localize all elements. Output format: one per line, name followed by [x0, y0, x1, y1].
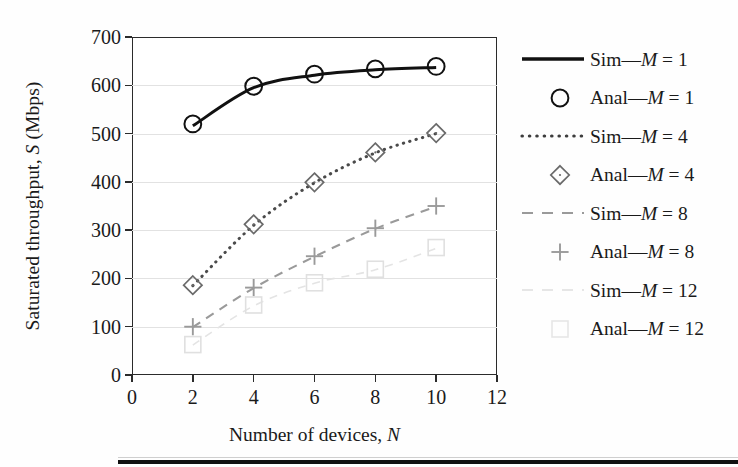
legend-label-variable: M — [641, 280, 657, 301]
x-tick-mark — [496, 375, 497, 382]
y-tick-mark — [125, 133, 132, 134]
x-tick-label: 2 — [188, 387, 198, 407]
diamond-marker — [520, 163, 586, 187]
faint-square-marker — [520, 317, 586, 341]
x-tick-mark — [253, 375, 254, 382]
data-point-marker — [246, 297, 262, 313]
y-tick-label: 600 — [91, 75, 121, 95]
legend-label-variable: M — [641, 126, 657, 147]
legend-label: Sim—M = 4 — [586, 127, 688, 147]
y-axis-title: Saturated throughput, S (Mbps) — [18, 37, 48, 375]
x-tick-mark — [314, 375, 315, 382]
dashed-line — [520, 201, 586, 225]
data-point-marker — [306, 248, 323, 265]
legend-label-variable: M — [641, 49, 657, 70]
legend-sample — [520, 86, 586, 110]
x-tick-mark — [375, 375, 376, 382]
data-point-marker — [552, 89, 569, 106]
y-tick-mark — [125, 326, 132, 327]
legend-label: Sim—M = 8 — [586, 204, 688, 224]
legend-label-variable: M — [647, 318, 663, 339]
legend-sample — [520, 124, 586, 148]
data-point-marker — [366, 143, 384, 161]
legend-label: Anal—M = 1 — [586, 88, 694, 108]
legend-label-value: = 12 — [657, 280, 697, 301]
legend-label: Anal—M = 4 — [586, 165, 694, 185]
legend-sample — [520, 201, 586, 225]
legend-item[interactable]: Anal—M = 12 — [520, 310, 732, 349]
x-axis-title-text: Number of devices, — [229, 424, 387, 445]
legend-item[interactable]: Anal—M = 8 — [520, 233, 732, 272]
y-tick-label: 500 — [91, 124, 121, 144]
legend-label-value: = 1 — [664, 87, 695, 108]
legend-label-value: = 8 — [664, 241, 695, 262]
y-tick-mark — [125, 229, 132, 230]
x-tick-label: 10 — [426, 387, 446, 407]
legend-label-variable: M — [647, 164, 663, 185]
legend-label-value: = 4 — [657, 126, 688, 147]
data-point-marker — [552, 321, 568, 337]
data-point-marker — [305, 173, 323, 191]
legend-label-prefix: Anal— — [590, 318, 647, 339]
x-tick-label: 6 — [310, 387, 320, 407]
legend-label-value: = 12 — [664, 318, 704, 339]
data-point-marker — [184, 276, 202, 294]
data-point-marker — [244, 215, 262, 233]
legend-item[interactable]: Sim—M = 4 — [520, 117, 732, 156]
legend-item[interactable]: Sim—M = 1 — [520, 40, 732, 79]
data-point-marker — [427, 124, 445, 142]
legend-label-prefix: Sim— — [590, 49, 641, 70]
legend-label-prefix: Sim— — [590, 126, 641, 147]
legend-sample — [520, 278, 586, 302]
data-point-marker — [367, 220, 384, 237]
legend-label: Anal—M = 8 — [586, 242, 694, 262]
plus-marker — [520, 240, 586, 264]
legend-label-prefix: Anal— — [590, 241, 647, 262]
data-point-marker — [428, 197, 445, 214]
x-tick-label: 12 — [487, 387, 507, 407]
legend-item[interactable]: Anal—M = 1 — [520, 79, 732, 118]
legend-label: Sim—M = 1 — [586, 50, 688, 70]
x-tick-label: 8 — [370, 387, 380, 407]
y-tick-mark — [125, 278, 132, 279]
legend-item[interactable]: Sim—M = 8 — [520, 194, 732, 233]
legend-sample — [520, 163, 586, 187]
y-tick-mark — [125, 181, 132, 182]
legend-label-value: = 1 — [657, 49, 688, 70]
legend-label-variable: M — [641, 203, 657, 224]
data-point-marker — [428, 240, 444, 256]
legend-sample — [520, 317, 586, 341]
y-tick-label: 200 — [91, 268, 121, 288]
x-tick-label: 0 — [127, 387, 137, 407]
legend-label-prefix: Sim— — [590, 280, 641, 301]
legend-label: Sim—M = 12 — [586, 281, 697, 301]
x-axis-title: Number of devices, N — [132, 424, 497, 446]
figure-canvas: Saturated throughput, S (Mbps) 010020030… — [0, 0, 738, 467]
series-layer — [132, 37, 497, 375]
chart-legend: Sim—M = 1Anal—M = 1Sim—M = 4Anal—M = 4Si… — [520, 40, 732, 348]
y-tick-label: 400 — [91, 172, 121, 192]
legend-label-prefix: Anal— — [590, 164, 647, 185]
y-tick-label: 300 — [91, 220, 121, 240]
data-point-marker — [551, 166, 569, 184]
x-axis-title-variable: N — [387, 424, 400, 445]
legend-label-value: = 8 — [657, 203, 688, 224]
y-axis-title-variable: S — [22, 145, 43, 155]
legend-label-variable: M — [647, 87, 663, 108]
page-rule-dark — [118, 460, 738, 464]
x-tick-label: 4 — [249, 387, 259, 407]
x-tick-mark — [192, 375, 193, 382]
page-rule-light — [118, 457, 738, 458]
data-point-marker — [184, 116, 201, 133]
legend-item[interactable]: Anal—M = 4 — [520, 156, 732, 195]
legend-item[interactable]: Sim—M = 12 — [520, 271, 732, 310]
dotted-line — [520, 124, 586, 148]
data-point-marker — [551, 243, 568, 260]
legend-label-prefix: Sim— — [590, 203, 641, 224]
legend-label-variable: M — [647, 241, 663, 262]
y-tick-label: 700 — [91, 27, 121, 47]
y-axis-title-units: (Mbps) — [22, 82, 43, 145]
x-tick-mark — [435, 375, 436, 382]
series-line — [193, 206, 436, 327]
y-tick-mark — [125, 36, 132, 37]
